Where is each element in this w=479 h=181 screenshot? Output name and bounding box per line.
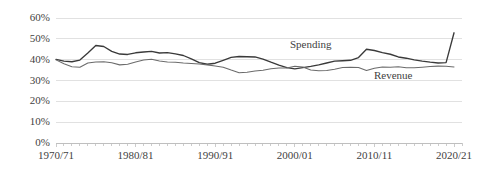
y-axis-tick-label: 40% [30, 54, 50, 65]
y-axis-tick-label: 50% [30, 33, 50, 44]
y-axis-tick-label: 60% [30, 12, 50, 23]
x-axis-tick-label: 1980/81 [96, 150, 176, 161]
y-axis-tick-label: 20% [30, 95, 50, 106]
series-label-revenue: Revenue [374, 70, 412, 81]
x-axis-tick-label: 2000/01 [255, 150, 335, 161]
x-axis-tick-label: 2010/11 [334, 150, 414, 161]
series-label-spending: Spending [290, 39, 332, 50]
y-axis-tick-label: 30% [30, 75, 50, 86]
chart-container: 60%50%40%30%20%10%0% 1970/711980/811990/… [0, 0, 479, 181]
x-axis-ticks [56, 143, 462, 147]
x-axis-tick-label: 1990/91 [175, 150, 255, 161]
x-axis-tick-label: 2020/21 [414, 150, 479, 161]
y-axis-tick-label: 0% [35, 137, 50, 148]
y-axis-tick-label: 10% [30, 116, 50, 127]
x-axis-tick-label: 1970/71 [16, 150, 96, 161]
